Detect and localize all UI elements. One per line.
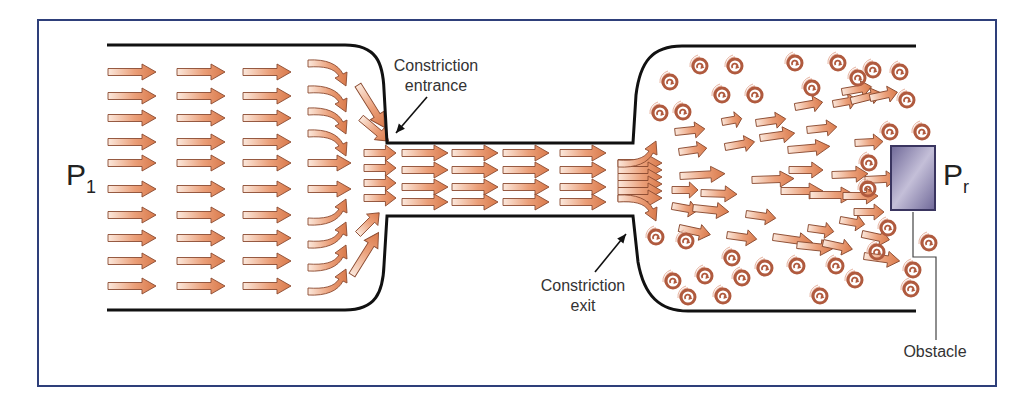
flow-arrow	[701, 185, 738, 202]
flow-arrow	[678, 140, 708, 160]
flow-arrow	[308, 155, 351, 171]
curved-flow-arrow	[308, 269, 347, 295]
flow-arrow	[452, 162, 498, 178]
flow-arrow	[108, 181, 156, 197]
eddy-swirl-icon	[725, 55, 742, 73]
flow-arrow	[177, 155, 225, 171]
flow-arrow	[745, 206, 777, 226]
flow-arrow	[402, 194, 448, 210]
flow-arrow	[726, 227, 758, 247]
flow-arrow	[177, 134, 225, 150]
obstacle-label: Obstacle	[895, 342, 975, 362]
flow-arrow	[243, 110, 291, 126]
eddy-swirl-icon	[646, 226, 663, 244]
eddy-swirl-icon	[785, 52, 802, 70]
flow-arrow	[177, 181, 225, 197]
flow-arrow	[752, 171, 795, 188]
eddy-swirl-icon	[732, 267, 749, 285]
exit-label-line1: Constriction	[533, 276, 633, 296]
entrance-pointer	[396, 97, 427, 133]
inlet-pressure-subscript: 1	[86, 177, 96, 197]
flow-arrow	[855, 134, 884, 151]
inlet-pressure-label: P1	[66, 160, 96, 202]
flow-arrow	[108, 278, 156, 294]
flow-arrow	[308, 181, 351, 197]
curved-flow-arrow	[308, 245, 347, 271]
flow-arrow	[402, 145, 448, 161]
eddy-swirl-icon	[901, 278, 918, 296]
flow-arrow	[560, 145, 606, 161]
flow-arrow	[868, 84, 899, 105]
flow-arrow	[806, 119, 838, 138]
eddy-swirl-icon	[903, 259, 920, 277]
constriction-exit-label: Constriction exit	[533, 276, 633, 316]
eddy-swirl-icon	[673, 101, 690, 119]
eddy-swirl-icon	[722, 247, 739, 265]
eddy-swirl-icon	[802, 77, 819, 95]
flow-arrow	[503, 145, 549, 161]
entrance-label-line2: entrance	[386, 76, 486, 96]
flow-arrow	[680, 166, 726, 184]
flow-arrow	[674, 121, 706, 140]
flow-arrow	[243, 181, 291, 197]
flow-arrows	[108, 60, 901, 295]
flow-arrow	[560, 179, 606, 195]
flow-arrow	[177, 88, 225, 104]
flow-arrow	[108, 64, 156, 80]
flow-arrow	[243, 253, 291, 269]
eddy-swirl-icon	[660, 71, 677, 89]
flow-arrow	[677, 220, 712, 242]
flow-arrow	[692, 200, 729, 220]
flow-arrow	[177, 253, 225, 269]
eddy-swirl-icon	[828, 52, 845, 70]
flow-arrow	[452, 145, 498, 161]
flow-arrow	[243, 155, 291, 171]
flow-arrow	[243, 278, 291, 294]
flow-arrow	[821, 235, 854, 257]
flow-arrow	[402, 162, 448, 178]
eddy-swirl-icon	[678, 286, 695, 304]
constriction-flow-diagram: P1 Pr Constriction entrance Constriction…	[0, 0, 1027, 402]
curved-flow-arrow	[308, 222, 347, 248]
eddy-swirl-icon	[690, 55, 707, 73]
flow-arrow	[108, 155, 156, 171]
flow-arrow	[364, 160, 396, 176]
eddy-swirl-icon	[897, 89, 914, 107]
flow-arrow	[402, 179, 448, 195]
eddy-swirl-icon	[712, 84, 729, 102]
eddy-swirl-icon	[890, 61, 907, 79]
flow-arrow	[503, 194, 549, 210]
flow-arrow	[560, 194, 606, 210]
eddy-swirl-icon	[919, 232, 936, 250]
flow-arrow	[560, 162, 606, 178]
entrance-label-line1: Constriction	[386, 56, 486, 76]
outlet-pressure-symbol: P	[943, 158, 963, 191]
flow-arrow	[243, 64, 291, 80]
flow-arrow	[108, 207, 156, 223]
exit-label-line2: exit	[533, 296, 633, 316]
flow-arrow	[243, 88, 291, 104]
flow-arrow	[108, 88, 156, 104]
flow-arrow	[503, 179, 549, 195]
flow-arrow	[794, 94, 824, 115]
curved-flow-arrow	[308, 199, 347, 225]
flow-arrow	[807, 220, 835, 239]
eddy-swirl-icon	[695, 265, 712, 283]
eddy-swirl-icon	[663, 270, 680, 288]
flow-arrow	[177, 110, 225, 126]
flow-arrow	[721, 111, 743, 130]
flow-arrow	[789, 162, 823, 178]
eddy-swirl-icon	[880, 121, 897, 139]
flow-diagram-canvas	[0, 0, 1027, 402]
constriction-entrance-label: Constriction entrance	[386, 56, 486, 96]
eddy-swirl-icon	[810, 285, 827, 303]
flow-arrow	[364, 190, 396, 206]
eddy-swirl-icon	[745, 84, 762, 102]
flow-arrow	[345, 228, 385, 279]
outlet-pressure-subscript: r	[963, 177, 969, 197]
flow-arrow	[364, 175, 396, 191]
flow-arrow	[108, 230, 156, 246]
flow-arrow	[724, 134, 756, 155]
flow-arrow	[243, 207, 291, 223]
exit-pointer	[595, 234, 626, 272]
